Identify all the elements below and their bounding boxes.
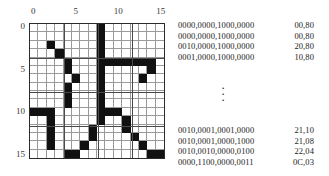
grid-cell[interactable] bbox=[89, 133, 97, 141]
grid-cell[interactable] bbox=[30, 133, 38, 141]
grid-cell[interactable] bbox=[55, 99, 63, 107]
grid-cell[interactable] bbox=[114, 83, 122, 91]
grid-cell[interactable] bbox=[122, 32, 130, 40]
grid-cell[interactable] bbox=[80, 58, 88, 66]
grid-cell[interactable] bbox=[156, 91, 164, 99]
bitmap-grid[interactable] bbox=[29, 23, 165, 159]
grid-cell[interactable] bbox=[64, 41, 72, 49]
grid-cell[interactable] bbox=[30, 108, 38, 116]
grid-cell[interactable] bbox=[97, 24, 105, 32]
grid-cell[interactable] bbox=[89, 108, 97, 116]
grid-cell[interactable] bbox=[72, 116, 80, 124]
grid-cell[interactable] bbox=[97, 74, 105, 82]
grid-cell[interactable] bbox=[89, 58, 97, 66]
grid-cell[interactable] bbox=[122, 133, 130, 141]
grid-cell[interactable] bbox=[38, 108, 46, 116]
grid-cell[interactable] bbox=[55, 116, 63, 124]
grid-cell[interactable] bbox=[131, 116, 139, 124]
grid-cell[interactable] bbox=[156, 32, 164, 40]
grid-cell[interactable] bbox=[55, 150, 63, 158]
grid-cell[interactable] bbox=[47, 74, 55, 82]
grid-cell[interactable] bbox=[30, 99, 38, 107]
grid-cell[interactable] bbox=[156, 125, 164, 133]
grid-cell[interactable] bbox=[55, 74, 63, 82]
grid-cell[interactable] bbox=[156, 66, 164, 74]
grid-cell[interactable] bbox=[72, 32, 80, 40]
grid-cell[interactable] bbox=[139, 125, 147, 133]
grid-cell[interactable] bbox=[89, 24, 97, 32]
grid-cell[interactable] bbox=[114, 133, 122, 141]
grid-cell[interactable] bbox=[64, 99, 72, 107]
grid-cell[interactable] bbox=[64, 141, 72, 149]
grid-cell[interactable] bbox=[47, 91, 55, 99]
grid-cell[interactable] bbox=[38, 58, 46, 66]
grid-cell[interactable] bbox=[64, 150, 72, 158]
grid-cell[interactable] bbox=[122, 108, 130, 116]
grid-cell[interactable] bbox=[64, 83, 72, 91]
grid-cell[interactable] bbox=[38, 41, 46, 49]
grid-cell[interactable] bbox=[147, 66, 155, 74]
grid-cell[interactable] bbox=[139, 133, 147, 141]
grid-cell[interactable] bbox=[38, 66, 46, 74]
grid-cell[interactable] bbox=[147, 24, 155, 32]
grid-cell[interactable] bbox=[147, 49, 155, 57]
grid-cell[interactable] bbox=[38, 99, 46, 107]
grid-cell[interactable] bbox=[114, 66, 122, 74]
grid-cell[interactable] bbox=[114, 49, 122, 57]
grid-cell[interactable] bbox=[30, 116, 38, 124]
grid-cell[interactable] bbox=[114, 141, 122, 149]
grid-cell[interactable] bbox=[97, 133, 105, 141]
grid-cell[interactable] bbox=[80, 108, 88, 116]
grid-cell[interactable] bbox=[80, 133, 88, 141]
grid-cell[interactable] bbox=[30, 150, 38, 158]
grid-cell[interactable] bbox=[105, 32, 113, 40]
grid-cell[interactable] bbox=[131, 141, 139, 149]
grid-cell[interactable] bbox=[38, 133, 46, 141]
grid-cell[interactable] bbox=[97, 108, 105, 116]
grid-cell[interactable] bbox=[114, 32, 122, 40]
grid-cell[interactable] bbox=[105, 24, 113, 32]
grid-cell[interactable] bbox=[97, 125, 105, 133]
grid-cell[interactable] bbox=[47, 150, 55, 158]
grid-cell[interactable] bbox=[55, 83, 63, 91]
grid-cell[interactable] bbox=[105, 41, 113, 49]
grid-cell[interactable] bbox=[97, 58, 105, 66]
grid-cell[interactable] bbox=[80, 66, 88, 74]
grid-cell[interactable] bbox=[55, 125, 63, 133]
grid-cell[interactable] bbox=[114, 74, 122, 82]
grid-cell[interactable] bbox=[105, 66, 113, 74]
grid-cell[interactable] bbox=[97, 116, 105, 124]
grid-cell[interactable] bbox=[38, 125, 46, 133]
grid-cell[interactable] bbox=[131, 150, 139, 158]
grid-cell[interactable] bbox=[80, 99, 88, 107]
grid-cell[interactable] bbox=[97, 83, 105, 91]
grid-cell[interactable] bbox=[105, 141, 113, 149]
grid-cell[interactable] bbox=[72, 49, 80, 57]
grid-cell[interactable] bbox=[72, 108, 80, 116]
grid-cell[interactable] bbox=[156, 99, 164, 107]
grid-cell[interactable] bbox=[89, 141, 97, 149]
grid-cell[interactable] bbox=[72, 41, 80, 49]
grid-cell[interactable] bbox=[147, 150, 155, 158]
grid-cell[interactable] bbox=[55, 24, 63, 32]
grid-cell[interactable] bbox=[47, 83, 55, 91]
grid-cell[interactable] bbox=[30, 83, 38, 91]
grid-cell[interactable] bbox=[147, 108, 155, 116]
grid-cell[interactable] bbox=[105, 99, 113, 107]
grid-cell[interactable] bbox=[147, 83, 155, 91]
grid-cell[interactable] bbox=[38, 74, 46, 82]
grid-cell[interactable] bbox=[147, 116, 155, 124]
grid-cell[interactable] bbox=[80, 49, 88, 57]
grid-cell[interactable] bbox=[139, 49, 147, 57]
grid-cell[interactable] bbox=[47, 49, 55, 57]
grid-cell[interactable] bbox=[72, 24, 80, 32]
grid-cell[interactable] bbox=[80, 141, 88, 149]
grid-cell[interactable] bbox=[64, 116, 72, 124]
grid-cell[interactable] bbox=[139, 66, 147, 74]
grid-cell[interactable] bbox=[139, 58, 147, 66]
grid-cell[interactable] bbox=[72, 125, 80, 133]
grid-cell[interactable] bbox=[64, 108, 72, 116]
grid-cell[interactable] bbox=[139, 108, 147, 116]
grid-cell[interactable] bbox=[72, 99, 80, 107]
grid-cell[interactable] bbox=[156, 141, 164, 149]
